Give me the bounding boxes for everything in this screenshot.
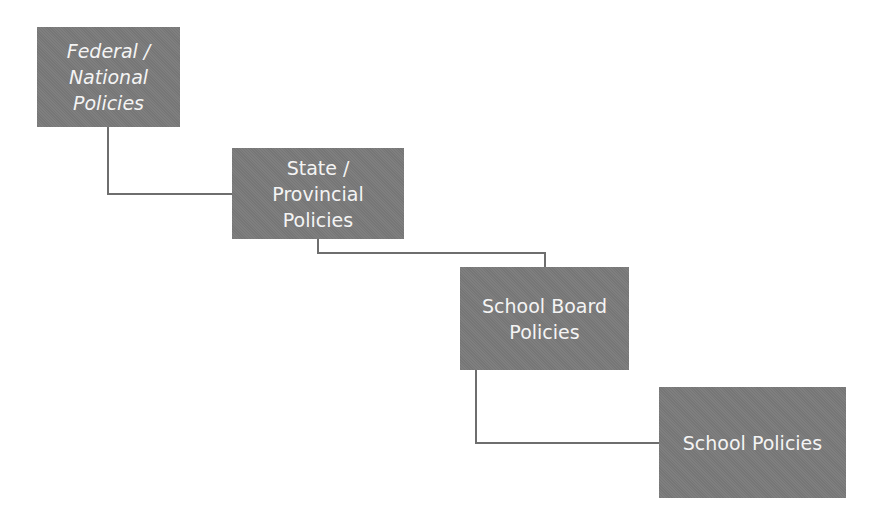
connector-federal-to-state-vertical [107, 127, 109, 195]
connector-state-to-board-vertical-2 [544, 252, 546, 267]
node-state-provincial-policies: State / Provincial Policies [232, 148, 404, 239]
connector-state-to-board-horizontal [317, 252, 546, 254]
node-label: State / Provincial Policies [272, 155, 363, 233]
node-label: Federal / National Policies [67, 38, 151, 116]
node-label: School Policies [683, 430, 822, 456]
node-school-policies: School Policies [659, 387, 846, 498]
connector-board-to-school-horizontal [475, 442, 659, 444]
node-label: School Board Policies [482, 293, 607, 345]
connector-board-to-school-vertical [475, 370, 477, 444]
connector-federal-to-state-horizontal [107, 193, 232, 195]
node-federal-national-policies: Federal / National Policies [37, 27, 180, 127]
node-school-board-policies: School Board Policies [460, 267, 629, 370]
